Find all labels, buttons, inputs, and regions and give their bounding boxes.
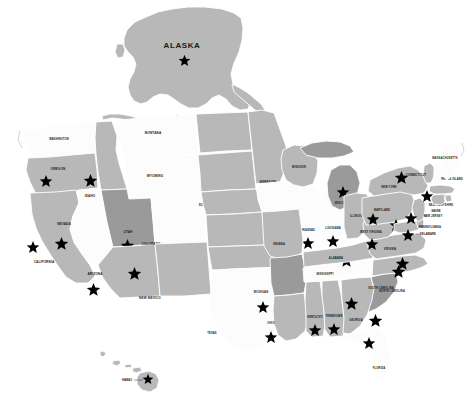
us-states-map: ALASKA HAWAII WASHINGTON OREGON CALIFORN… xyxy=(0,0,468,399)
label-CA: CALIFORNIA xyxy=(34,260,55,264)
state-MA[interactable] xyxy=(429,185,455,194)
label-TX: TEXAS xyxy=(207,331,217,335)
star-CA[interactable] xyxy=(27,241,40,253)
atlantic-coast-detail xyxy=(461,143,464,156)
state-OR[interactable] xyxy=(26,153,98,194)
alaska-inset: ALASKA xyxy=(102,7,265,127)
state-GA[interactable] xyxy=(341,277,374,334)
state-MO[interactable] xyxy=(262,209,303,259)
state-NE[interactable] xyxy=(201,189,262,215)
label-NJ: NEW JERSEY xyxy=(424,214,443,218)
state-AR[interactable] xyxy=(270,254,306,296)
state-LA[interactable] xyxy=(273,293,309,341)
state-CO[interactable] xyxy=(151,196,207,244)
state-VT[interactable] xyxy=(423,163,434,183)
state-RI[interactable] xyxy=(445,195,452,202)
state-NY[interactable] xyxy=(368,166,428,196)
star-SC[interactable] xyxy=(369,314,383,327)
label-CT: MAINE xyxy=(431,209,440,213)
state-AK[interactable] xyxy=(124,7,250,110)
state-SD[interactable] xyxy=(198,151,256,192)
state-HI-kauai xyxy=(100,351,106,357)
state-KS[interactable] xyxy=(206,212,265,247)
pacific-coast-detail xyxy=(18,131,22,148)
hawaii-inset: HAWAII xyxy=(100,351,159,392)
label-HI: HAWAII xyxy=(122,378,132,382)
map-svg: ALASKA HAWAII WASHINGTON OREGON CALIFORN… xyxy=(0,0,468,399)
state-HI-oahu xyxy=(112,360,121,366)
state-CT[interactable] xyxy=(431,194,445,205)
alaska-island-small xyxy=(115,44,125,58)
state-IA[interactable] xyxy=(256,182,302,212)
state-WY[interactable] xyxy=(124,155,201,199)
label-MD: DELAWARE xyxy=(420,232,436,236)
state-WA[interactable] xyxy=(22,122,96,158)
state-ME[interactable] xyxy=(442,144,461,180)
state-HI-molokai xyxy=(124,364,132,368)
state-MI-upper xyxy=(300,141,354,158)
state-NM[interactable] xyxy=(155,242,211,296)
state-ND[interactable] xyxy=(196,112,252,153)
state-HI-maui xyxy=(132,367,142,373)
star-AZ[interactable] xyxy=(87,283,101,296)
state-MT[interactable] xyxy=(112,114,198,158)
state-NH[interactable] xyxy=(434,163,444,185)
state-FL[interactable] xyxy=(343,328,390,380)
